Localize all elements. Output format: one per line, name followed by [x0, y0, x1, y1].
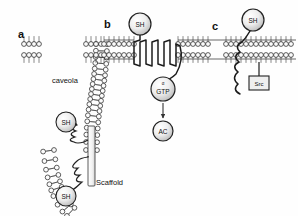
sh-lower-label: SH: [61, 193, 70, 200]
sh-lower-coil: [70, 156, 88, 192]
panel-b-bilayer-left-outer: [102, 36, 137, 46]
sh-receptor-label: SH: [135, 21, 144, 28]
panel-b: b SH α GTP AC: [104, 13, 181, 141]
panel-a-flat-top-left-outer: [22, 36, 42, 46]
caveola-label: caveola: [52, 76, 79, 85]
galpha-gtp-node: α GTP: [151, 77, 175, 101]
sh-node-c: SH: [242, 9, 264, 31]
signalling-diagram: a Scaffold caveola SH SH b: [0, 0, 298, 216]
galpha-symbol: α: [162, 81, 165, 86]
panel-letter-a: a: [18, 28, 25, 40]
src-node: Src: [249, 76, 269, 90]
sh-c-label: SH: [248, 17, 257, 24]
ac-label: AC: [158, 128, 167, 135]
panel-letter-c: c: [212, 20, 218, 32]
src-label: Src: [255, 81, 264, 87]
adenylyl-cyclase-node: AC: [153, 121, 173, 141]
panel-a-flat-top-right-outer: [84, 36, 104, 46]
panel-letter-b: b: [104, 18, 111, 30]
panel-c-bilayer-outer: [224, 36, 294, 46]
scaffold-label: Scaffold: [96, 178, 123, 187]
receptor-c-tail: [235, 31, 251, 94]
panel-c: c SH Src: [212, 9, 269, 94]
scaffold-bar: [88, 126, 95, 186]
panel-c-bilayer-inner: [224, 53, 294, 63]
panel-b-bilayer-right-outer: [176, 36, 211, 46]
seven-transmembrane-receptor: [134, 35, 181, 80]
sh-node-receptor: SH: [129, 13, 151, 35]
sh-node-lower: SH: [56, 186, 76, 206]
sh-upper-label: SH: [61, 119, 70, 126]
figure-canvas: a Scaffold caveola SH SH b: [0, 0, 298, 216]
gtp-label: GTP: [156, 88, 169, 95]
sh-node-upper: SH: [56, 112, 76, 132]
panel-a-flat-top-left-inner: [22, 53, 42, 63]
